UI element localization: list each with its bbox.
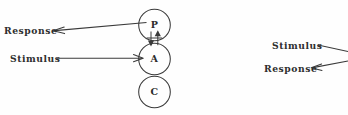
left-stimulus-label: Stimulus	[10, 54, 61, 63]
right-stimulus-label: Stimulus	[272, 41, 323, 50]
right-response-label: Response	[264, 64, 317, 73]
node-label-a: A	[150, 53, 159, 64]
node-label-p: P	[151, 19, 159, 30]
left-response-label: Response	[4, 26, 57, 35]
figure-canvas: P A C	[0, 0, 348, 115]
response-arrow-right-line	[313, 61, 348, 68]
response-arrow-left	[53, 23, 146, 34]
node-label-c: C	[151, 86, 159, 97]
stimulus-arrow-left	[57, 55, 143, 62]
